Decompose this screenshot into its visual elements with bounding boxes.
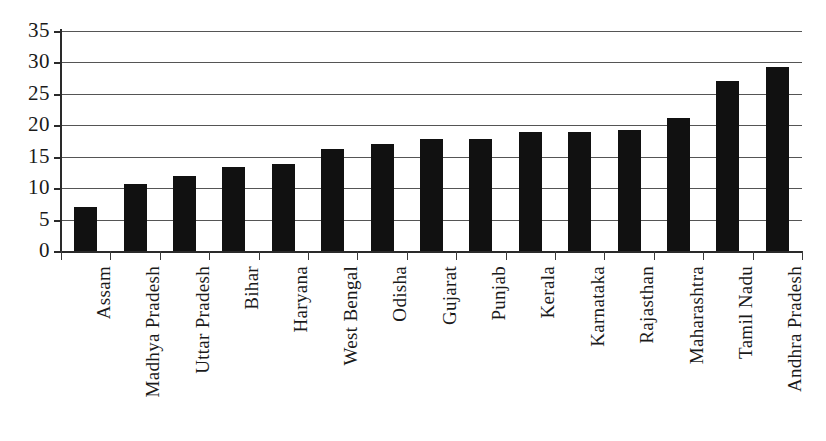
x-axis-tick-mark	[209, 251, 210, 260]
x-axis-tick-mark	[802, 251, 803, 260]
x-axis-tick-label: Kerala	[538, 266, 557, 426]
x-axis-tick-label: Gujarat	[440, 266, 459, 426]
bar	[321, 149, 344, 251]
bar	[766, 67, 789, 251]
bar	[568, 132, 591, 251]
bar	[74, 207, 97, 251]
x-axis-tick-mark	[703, 251, 704, 260]
bar	[618, 130, 641, 251]
x-axis-line	[61, 251, 803, 253]
x-axis-tick-label: Punjab	[489, 266, 508, 426]
bar-chart: 05101520253035 AssamMadhya PradeshUttar …	[0, 0, 826, 441]
y-axis-tick-label: 15	[10, 146, 50, 167]
x-axis-tick-label: Tamil Nadu	[736, 266, 755, 426]
bar	[222, 167, 245, 251]
x-axis-tick-mark	[456, 251, 457, 260]
x-axis-tick-label: Maharashtra	[687, 266, 706, 426]
bar	[272, 164, 295, 251]
x-axis-tick-label: Madhya Pradesh	[143, 266, 162, 426]
x-axis-tick-mark	[110, 251, 111, 260]
bar	[124, 184, 147, 251]
y-axis-tick-label: 10	[10, 177, 50, 198]
x-axis-tick-label: West Bengal	[341, 266, 360, 426]
bar	[667, 118, 690, 251]
y-axis-tick-label: 30	[10, 51, 50, 72]
y-axis-tick-label: 0	[10, 240, 50, 261]
y-axis-tick-label: 25	[10, 83, 50, 104]
x-axis-tick-label: Rajasthan	[637, 266, 656, 426]
x-axis-tick-label: Uttar Pradesh	[193, 266, 212, 426]
x-axis-tick-mark	[753, 251, 754, 260]
x-axis-tick-mark	[160, 251, 161, 260]
x-axis-tick-label: Assam	[94, 266, 113, 426]
x-axis-tick-mark	[61, 251, 62, 260]
bar	[173, 176, 196, 251]
x-axis-tick-label: Karnataka	[588, 266, 607, 426]
y-axis-tick-label: 20	[10, 114, 50, 135]
x-axis-tick-label: Odisha	[390, 266, 409, 426]
x-axis-tick-mark	[604, 251, 605, 260]
x-axis-tick-mark	[357, 251, 358, 260]
x-axis-tick-mark	[407, 251, 408, 260]
bar	[469, 139, 492, 252]
x-axis-tick-label: Andhra Pradesh	[785, 266, 804, 426]
bar	[420, 139, 443, 251]
x-axis-tick-mark	[654, 251, 655, 260]
plot-area	[61, 31, 802, 251]
bar	[371, 144, 394, 251]
x-axis-tick-label: Bihar	[242, 266, 261, 426]
bar	[519, 132, 542, 251]
x-axis-tick-mark	[259, 251, 260, 260]
y-axis-tick-label: 5	[10, 209, 50, 230]
y-axis-tick-label: 35	[10, 20, 50, 41]
bar	[716, 81, 739, 251]
x-axis-tick-mark	[308, 251, 309, 260]
x-axis-tick-mark	[555, 251, 556, 260]
x-axis-tick-label: Haryana	[291, 266, 310, 426]
x-axis-tick-mark	[506, 251, 507, 260]
